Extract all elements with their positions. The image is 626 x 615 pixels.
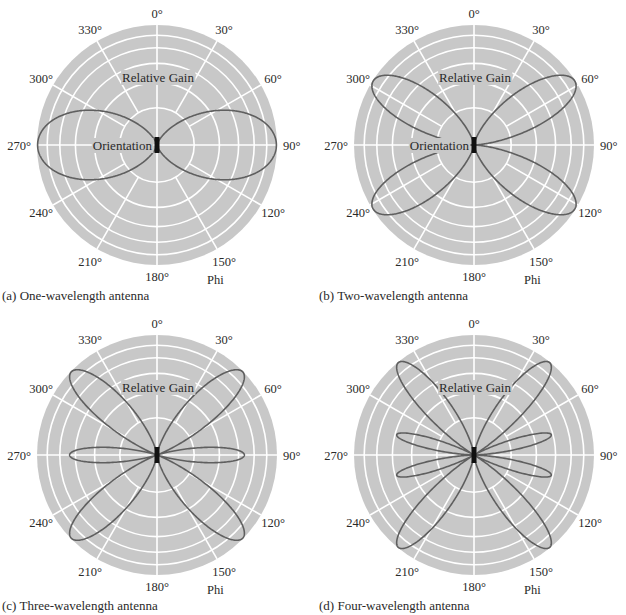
angle-tick-label: 30° [215, 23, 233, 37]
angle-tick-label: 240° [346, 516, 370, 530]
caption-c: (c) Three-wavelength antenna [2, 598, 158, 614]
angle-tick-label: 90° [283, 449, 301, 463]
angle-tick-label: 270° [7, 139, 31, 153]
angle-tick-label: 0° [468, 317, 479, 331]
angle-tick-label: 300° [29, 72, 53, 86]
angle-tick-label: 300° [346, 72, 370, 86]
panel-a: Relative GainOrientation0°30°60°90°120°1… [0, 0, 313, 308]
angle-tick-label: 60° [264, 72, 282, 86]
angle-tick-label: 150° [212, 565, 236, 579]
angle-tick-label: 120° [261, 206, 285, 220]
angle-tick-label: 0° [151, 7, 162, 21]
angle-tick-label: 300° [346, 382, 370, 396]
angle-tick-label: 240° [29, 206, 53, 220]
orientation-label: Orientation [93, 138, 153, 153]
angle-tick-label: 30° [532, 333, 550, 347]
caption-b: (b) Two-wavelength antenna [319, 288, 468, 304]
angle-tick-label: 180° [462, 270, 486, 284]
orientation-label: Orientation [410, 138, 470, 153]
angle-tick-label: 90° [600, 449, 618, 463]
antenna-element-icon [472, 447, 477, 463]
angle-tick-label: 60° [581, 382, 599, 396]
angle-tick-label: 150° [212, 255, 236, 269]
angle-tick-label: 0° [468, 7, 479, 21]
angle-tick-label: 330° [395, 23, 419, 37]
relative-gain-label: Relative Gain [439, 70, 511, 85]
angle-tick-label: 270° [7, 449, 31, 463]
angle-tick-label: 210° [395, 255, 419, 269]
angle-tick-label: 210° [395, 565, 419, 579]
angle-tick-label: 210° [78, 255, 102, 269]
angle-tick-label: 300° [29, 382, 53, 396]
panel-b: Relative GainOrientation0°30°60°90°120°1… [317, 0, 626, 308]
panel-d: Relative Gain0°30°60°90°120°150°180°210°… [317, 310, 626, 615]
polar-chart-a: Relative GainOrientation0°30°60°90°120°1… [0, 0, 313, 308]
angle-tick-label: 240° [346, 206, 370, 220]
angle-tick-label: 90° [600, 139, 618, 153]
phi-axis-label: Phi [524, 583, 541, 597]
phi-axis-label: Phi [207, 273, 224, 287]
angle-tick-label: 150° [529, 565, 553, 579]
angle-tick-label: 30° [532, 23, 550, 37]
relative-gain-label: Relative Gain [439, 380, 511, 395]
angle-tick-label: 180° [145, 580, 169, 594]
angle-tick-label: 180° [462, 580, 486, 594]
angle-tick-label: 60° [581, 72, 599, 86]
caption-a: (a) One-wavelength antenna [2, 288, 149, 304]
angle-tick-label: 90° [283, 139, 301, 153]
phi-axis-label: Phi [524, 273, 541, 287]
angle-tick-label: 0° [151, 317, 162, 331]
angle-tick-label: 120° [261, 516, 285, 530]
polar-chart-d: Relative Gain0°30°60°90°120°150°180°210°… [317, 310, 626, 615]
angle-tick-label: 210° [78, 565, 102, 579]
antenna-element-icon [155, 137, 160, 153]
relative-gain-label: Relative Gain [122, 380, 194, 395]
antenna-element-icon [472, 137, 477, 153]
polar-chart-b: Relative GainOrientation0°30°60°90°120°1… [317, 0, 626, 308]
antenna-element-icon [155, 447, 160, 463]
angle-tick-label: 330° [395, 333, 419, 347]
angle-tick-label: 270° [324, 139, 348, 153]
phi-axis-label: Phi [207, 583, 224, 597]
angle-tick-label: 120° [578, 516, 602, 530]
caption-d: (d) Four-wavelength antenna [319, 598, 470, 614]
angle-tick-label: 30° [215, 333, 233, 347]
polar-chart-c: Relative Gain0°30°60°90°120°150°180°210°… [0, 310, 313, 615]
angle-tick-label: 120° [578, 206, 602, 220]
angle-tick-label: 60° [264, 382, 282, 396]
angle-tick-label: 330° [78, 333, 102, 347]
panel-c: Relative Gain0°30°60°90°120°150°180°210°… [0, 310, 313, 615]
angle-tick-label: 180° [145, 270, 169, 284]
relative-gain-label: Relative Gain [122, 70, 194, 85]
angle-tick-label: 270° [324, 449, 348, 463]
angle-tick-label: 150° [529, 255, 553, 269]
angle-tick-label: 330° [78, 23, 102, 37]
angle-tick-label: 240° [29, 516, 53, 530]
